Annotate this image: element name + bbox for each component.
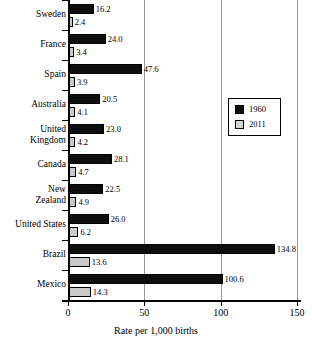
category-label: Mexico	[0, 279, 66, 290]
category-tick	[62, 240, 69, 241]
bar-value-label: 6.2	[80, 228, 91, 237]
bar-1960	[69, 154, 112, 164]
bar-value-label: 2.4	[75, 18, 86, 27]
category-label: Canada	[0, 159, 66, 170]
bar-value-label: 4.7	[78, 168, 89, 177]
bar-1960	[69, 184, 103, 194]
category-label: Sweden	[0, 9, 66, 20]
infant-mortality-bar-chart: Sweden16.22.4France24.03.4Spain47.63.9Au…	[0, 0, 312, 345]
category-row: Sweden16.22.4	[0, 0, 312, 30]
bar-1960	[69, 64, 142, 74]
bar-value-label: 100.6	[225, 275, 244, 284]
category-label: New Zealand	[0, 184, 66, 206]
bar-2011	[69, 167, 76, 177]
category-label: Brazil	[0, 249, 66, 260]
bar-value-label: 3.4	[76, 48, 87, 57]
bar-value-label: 4.2	[77, 138, 88, 147]
bar-2011	[69, 107, 75, 117]
bar-2011	[69, 77, 75, 87]
gray-square-icon	[235, 120, 244, 129]
category-label: Australia	[0, 99, 66, 110]
category-tick	[62, 90, 69, 91]
category-tick	[62, 30, 69, 31]
category-row: New Zealand22.54.9	[0, 180, 312, 210]
bar-1960	[69, 94, 100, 104]
bar-1960	[69, 244, 275, 254]
x-tick-label-0: 0	[48, 307, 88, 318]
bar-value-label: 28.1	[114, 155, 129, 164]
category-row: Mexico100.614.3	[0, 270, 312, 300]
category-label: United Kingdom	[0, 124, 66, 146]
bar-value-label: 24.0	[108, 35, 123, 44]
x-tick-label-150: 150	[277, 307, 312, 318]
category-tick	[62, 150, 69, 151]
category-tick	[62, 180, 69, 181]
bar-2011	[69, 227, 78, 237]
category-label: Spain	[0, 69, 66, 80]
x-axis-line	[62, 300, 301, 302]
chart-legend: 1960 2011	[228, 98, 281, 136]
category-row: Brazil134.813.6	[0, 240, 312, 270]
bar-1960	[69, 214, 109, 224]
x-tick-50	[144, 301, 145, 306]
legend-entry-1960: 1960	[235, 105, 266, 114]
category-tick	[62, 210, 69, 211]
bar-value-label: 23.0	[106, 125, 121, 134]
bar-value-label: 4.1	[77, 108, 88, 117]
category-tick	[62, 0, 69, 1]
category-row: Spain47.63.9	[0, 60, 312, 90]
category-row: France24.03.4	[0, 30, 312, 60]
category-tick	[62, 60, 69, 61]
category-tick	[62, 270, 69, 271]
bar-value-label: 16.2	[96, 5, 111, 14]
x-tick-label-100: 100	[201, 307, 241, 318]
bar-2011	[69, 137, 75, 147]
legend-label-2011: 2011	[249, 120, 266, 129]
bar-value-label: 3.9	[77, 78, 88, 87]
category-row: United States26.06.2	[0, 210, 312, 240]
bar-2011	[69, 257, 90, 267]
bar-value-label: 47.6	[144, 65, 159, 74]
x-tick-100	[221, 301, 222, 306]
x-tick-0	[68, 301, 69, 306]
bar-2011	[69, 197, 76, 207]
bar-1960	[69, 274, 223, 284]
bar-value-label: 20.5	[102, 95, 117, 104]
category-label: France	[0, 39, 66, 50]
bar-value-label: 14.3	[93, 288, 108, 297]
bar-value-label: 22.5	[105, 185, 120, 194]
black-square-icon	[235, 105, 244, 114]
x-axis-title: Rate per 1,000 births	[0, 325, 312, 336]
category-row: Canada28.14.7	[0, 150, 312, 180]
x-tick-label-50: 50	[124, 307, 164, 318]
bar-1960	[69, 124, 104, 134]
bar-2011	[69, 47, 74, 57]
bar-value-label: 134.8	[277, 245, 296, 254]
bar-value-label: 4.9	[78, 198, 89, 207]
bar-2011	[69, 17, 73, 27]
category-tick	[62, 120, 69, 121]
legend-label-1960: 1960	[249, 105, 266, 114]
x-tick-150	[297, 301, 298, 306]
bar-value-label: 13.6	[92, 258, 107, 267]
bar-1960	[69, 4, 94, 14]
legend-entry-2011: 2011	[235, 120, 266, 129]
bar-2011	[69, 287, 91, 297]
bar-value-label: 26.0	[111, 215, 126, 224]
bar-1960	[69, 34, 106, 44]
category-label: United States	[0, 219, 66, 230]
